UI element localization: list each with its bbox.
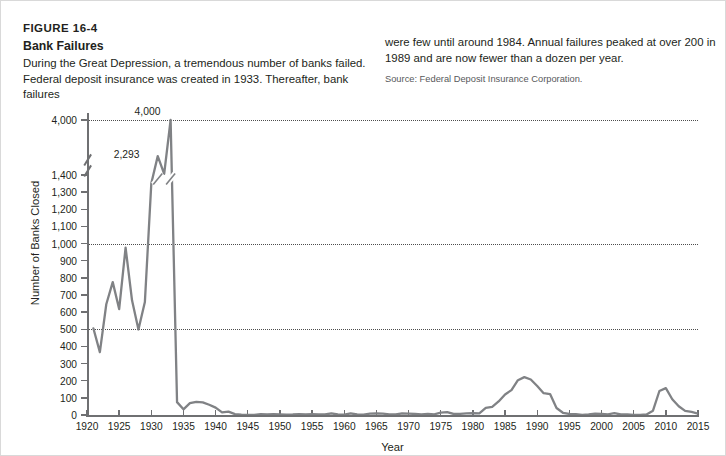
x-tick-label: 1965	[365, 421, 388, 432]
x-tick-label: 1945	[236, 421, 259, 432]
figure-number: FIGURE 16-4	[23, 21, 713, 36]
plot-area	[87, 115, 698, 415]
y-tick-label: 200	[1, 375, 77, 386]
series-path	[93, 120, 698, 415]
x-tick-label: 1930	[140, 421, 163, 432]
x-tick-label: 2010	[654, 421, 677, 432]
chart: 01002003004005006007008009001,0001,1001,…	[1, 97, 726, 456]
figure-panel: FIGURE 16-4 Bank Failures During the Gre…	[0, 0, 726, 456]
x-tick-label: 2005	[622, 421, 645, 432]
x-axis-line	[87, 415, 698, 417]
annotation-label: 4,000	[135, 106, 161, 117]
y-tick-label: 4,000	[1, 115, 77, 126]
caption-right-column: were few until around 1984. Annual failu…	[385, 35, 721, 86]
x-tick-label: 1950	[269, 421, 292, 432]
x-tick-label: 1940	[204, 421, 227, 432]
y-tick-label: 300	[1, 358, 77, 369]
x-tick-label: 1970	[397, 421, 420, 432]
x-tick-label: 1925	[108, 421, 131, 432]
y-tick-label: 100	[1, 392, 77, 403]
caption-text-right: were few until around 1984. Annual failu…	[385, 35, 721, 66]
source-note: Source: Federal Deposit Insurance Corpor…	[385, 73, 721, 86]
y-tick-label: 0	[1, 410, 77, 421]
annotation-label: 2,293	[114, 149, 140, 160]
x-tick-label: 1955	[301, 421, 324, 432]
x-tick-label: 2000	[590, 421, 613, 432]
x-tick-label: 2015	[687, 421, 710, 432]
x-tick-label: 1995	[558, 421, 581, 432]
x-tick-label: 1920	[76, 421, 99, 432]
data-line-series	[87, 115, 698, 415]
x-tick-label: 1935	[172, 421, 195, 432]
caption-left-column: During the Great Depression, a tremendou…	[23, 56, 368, 103]
x-axis-label: Year	[87, 441, 698, 453]
caption-text-left: During the Great Depression, a tremendou…	[23, 56, 368, 103]
x-tick-label: 1960	[333, 421, 356, 432]
y-axis-label: Number of Banks Closed	[29, 133, 41, 353]
x-tick-label: 1985	[494, 421, 517, 432]
x-tick-label: 1980	[462, 421, 485, 432]
x-tick-label: 1990	[526, 421, 549, 432]
x-tick-label: 1975	[429, 421, 452, 432]
